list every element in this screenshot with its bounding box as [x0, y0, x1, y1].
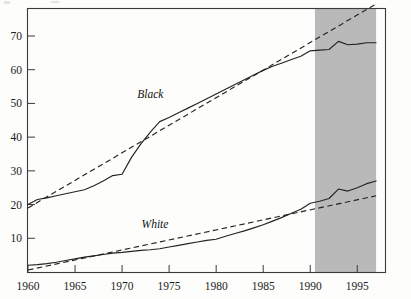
- x-tick-label: 1960: [17, 280, 40, 292]
- x-tick-label: 1975: [158, 280, 181, 292]
- x-tick-labels: 19601965197019751980198519901995: [17, 280, 370, 292]
- x-tick-label: 1970: [111, 280, 134, 292]
- line-chart: 10203040506070 1960196519701975198019851…: [0, 0, 411, 299]
- y-tick-label: 20: [11, 199, 23, 211]
- x-axis-ticks: [28, 265, 357, 272]
- x-tick-label: 1980: [205, 280, 228, 292]
- y-tick-label: 70: [11, 30, 23, 42]
- series-annotations: BlackWhite: [137, 88, 168, 230]
- x-tick-label: 1995: [346, 280, 369, 292]
- y-tick-labels: 10203040506070: [11, 30, 23, 244]
- scan-artifact: [51, 1, 59, 3]
- y-tick-label: 60: [11, 64, 23, 76]
- x-tick-label: 1985: [252, 280, 275, 292]
- chart-svg: 10203040506070 1960196519701975198019851…: [0, 0, 411, 299]
- y-tick-label: 40: [11, 131, 23, 143]
- scan-artifact: [4, 1, 10, 4]
- white-series-label: White: [142, 218, 169, 230]
- y-tick-label: 50: [11, 97, 23, 109]
- y-tick-label: 10: [11, 232, 23, 244]
- black-series-label: Black: [137, 88, 164, 100]
- shaded-region-group: [315, 9, 376, 272]
- y-tick-label: 30: [11, 165, 23, 177]
- x-tick-label: 1990: [299, 280, 322, 292]
- highlight-band: [315, 9, 376, 272]
- x-tick-label: 1965: [64, 280, 87, 292]
